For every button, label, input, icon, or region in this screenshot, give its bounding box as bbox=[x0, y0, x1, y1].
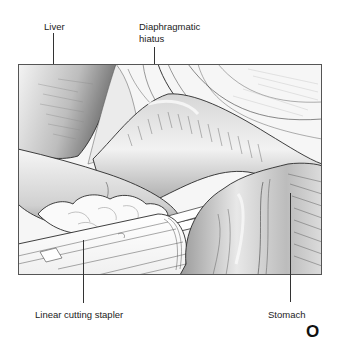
label-liver: Liver bbox=[44, 21, 65, 32]
label-diaphragmatic-hiatus-line1: Diaphragmatic bbox=[139, 21, 200, 32]
leader-line-stomach bbox=[290, 193, 291, 302]
panel-letter: O bbox=[306, 322, 319, 342]
label-diaphragmatic-hiatus-line2: hiatus bbox=[139, 33, 164, 44]
leader-line-stapler bbox=[83, 240, 84, 303]
surgical-illustration bbox=[18, 64, 322, 275]
label-linear-cutting-stapler: Linear cutting stapler bbox=[35, 309, 123, 320]
label-stomach: Stomach bbox=[268, 309, 306, 320]
